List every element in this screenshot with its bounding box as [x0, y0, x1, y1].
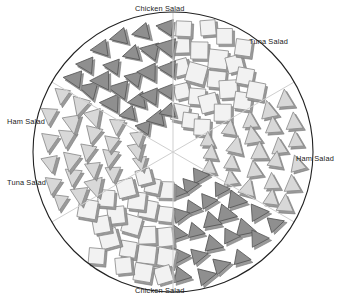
- glyph-face: [214, 104, 231, 121]
- sector-label-chicken-top: Chicken Salad: [135, 5, 185, 12]
- icon-glyph-triangle-right: [174, 266, 196, 288]
- icon-glyph-triangle-left: [155, 18, 176, 39]
- chart-canvas: Chicken Salad Tuna Salad Ham Salad Ham S…: [0, 0, 340, 303]
- icon-glyph-square: [115, 257, 135, 277]
- glyph-face: [102, 57, 119, 74]
- icon-glyph-triangle-left: [120, 44, 142, 66]
- glyph-face: [270, 136, 288, 154]
- icon-glyph-triangle-up: [283, 174, 303, 194]
- glyph-face: [217, 28, 233, 44]
- sector-label-ham-right: Ham Salad: [296, 155, 334, 162]
- sector-label-chicken-bottom: Chicken Salad: [135, 287, 185, 294]
- sector-label-tuna-bottom-left: Tuna Salad: [7, 179, 46, 186]
- icon-glyph-triangle-right: [267, 213, 289, 235]
- glyph-face: [245, 159, 263, 177]
- icon-glyph-triangle-right: [234, 249, 255, 270]
- icon-glyph-triangle-right: [252, 229, 272, 249]
- glyph-face: [173, 82, 191, 100]
- icon-glyph-square: [132, 262, 155, 285]
- icon-glyph-square: [115, 177, 139, 201]
- glyph-face: [285, 111, 303, 129]
- glyph-face: [130, 23, 150, 43]
- glyph-face: [99, 93, 118, 112]
- glyph-face: [276, 193, 294, 211]
- icon-glyph-triangle-down: [78, 144, 100, 166]
- icon-glyph-triangle-up: [270, 136, 290, 156]
- glyph-face: [133, 262, 153, 282]
- sector-label-tuna-top-right: Tuna Salad: [249, 38, 288, 45]
- icon-glyph-square: [191, 42, 211, 62]
- icon-glyph-triangle-left: [62, 69, 84, 91]
- glyph-face: [191, 42, 208, 59]
- glyph-face: [88, 248, 105, 265]
- icon-glyph-triangle-up: [245, 159, 266, 180]
- glyph-face: [155, 18, 173, 36]
- icon-glyph-triangle-down: [39, 133, 62, 156]
- glyph-face: [75, 56, 93, 74]
- icon-glyph-triangle-up: [225, 134, 248, 158]
- icon-glyph-triangle-up: [263, 172, 282, 191]
- icon-glyph-triangle-down: [63, 169, 84, 190]
- glyph-face: [283, 174, 301, 192]
- glyph-face: [263, 172, 280, 189]
- glyph-face: [115, 257, 133, 275]
- glyph-face: [137, 244, 157, 264]
- glyph-face: [200, 20, 216, 36]
- icon-glyph-triangle-down: [41, 155, 63, 177]
- sector-label-ham-left: Ham Salad: [7, 118, 45, 125]
- glyph-face: [246, 81, 266, 101]
- icon-glyph-square: [200, 19, 219, 38]
- icon-glyph-triangle-up: [287, 130, 306, 149]
- icon-glyph-triangle-down: [52, 88, 72, 108]
- icon-glyph-triangle-down: [52, 195, 71, 214]
- glyph-face: [176, 21, 192, 37]
- glyph-face: [287, 131, 303, 147]
- circular-icon-array-chart: [0, 0, 340, 303]
- glyph-face: [115, 178, 136, 199]
- icon-glyph-square: [88, 248, 107, 268]
- icon-glyph-triangle-down: [109, 119, 128, 138]
- icon-glyph-triangle-left: [157, 59, 178, 80]
- icon-glyph-square: [246, 81, 268, 104]
- icon-glyph-square: [176, 21, 194, 39]
- glyph-face: [62, 69, 82, 89]
- icon-glyph-square: [217, 28, 235, 46]
- icon-glyph-triangle-left: [108, 27, 131, 50]
- icon-glyph-triangle-left: [130, 22, 153, 45]
- icon-glyph-triangle-up: [285, 111, 306, 132]
